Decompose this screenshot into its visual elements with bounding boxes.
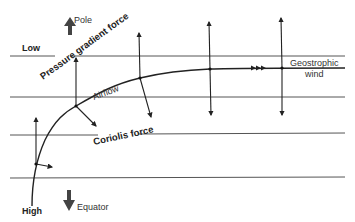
pgf-arrow-5 [281,18,282,68]
coriolis-force-label: Coriolis force [92,123,154,146]
coriolis-arrow-1 [36,164,52,167]
isobar-3b [138,133,345,134]
geostrophic-label-line2: wind [304,69,324,79]
pgf-arrow-3 [139,33,140,78]
geostrophic-wind-diagram: Pole Equator Low High Pressure gradient … [0,0,355,222]
pole-label: Pole [74,15,92,25]
airflow-points [34,66,283,165]
airflow-curve [32,68,345,206]
flow-direction-chevrons [251,66,266,71]
equator-arrow-icon [63,190,75,211]
isobar-4 [10,177,345,178]
coriolis-arrow-2 [76,106,96,126]
force-vectors [36,18,282,167]
low-label: Low [22,43,41,53]
pgf-arrow-4 [209,22,210,69]
high-label: High [22,206,42,216]
coriolis-arrow-4 [210,69,211,115]
geostrophic-label-line1: Geostrophic [290,58,339,68]
airflow-label: Airflow [91,83,120,102]
equator-label: Equator [77,202,109,212]
